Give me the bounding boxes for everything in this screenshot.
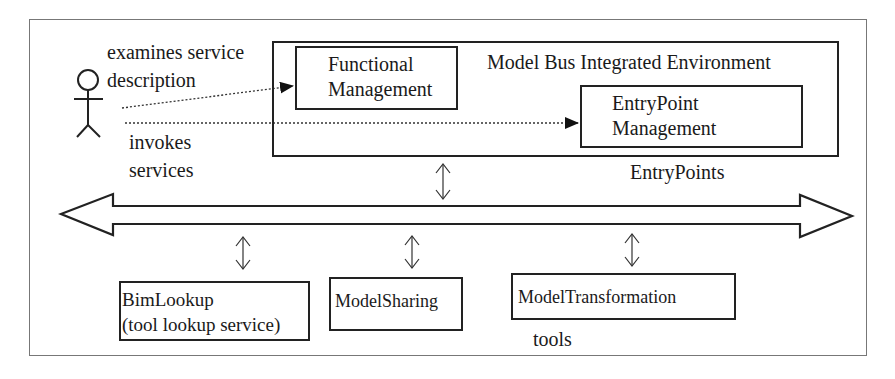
functional-management-line1: Functional [328,52,456,77]
functional-management-line2: Management [328,77,456,102]
model-bus-arrow [61,194,852,237]
tool-modeltransformation-label: ModelTransformation [518,285,734,310]
invokes-label-line2: services [129,158,193,183]
tool-bimlookup-line2: (tool lookup service) [122,312,308,337]
examines-label-line1: examines service [107,40,244,65]
env-bus-connector-icon [436,164,450,199]
diagram-canvas: examines service description invokes ser… [0,0,895,379]
environment-title: Model Bus Integrated Environment [487,50,771,75]
modeltransformation-bus-connector-icon [625,234,639,266]
examines-label-line2: description [107,68,196,93]
invokes-label-line1: invokes [129,130,191,155]
entrypoints-label: EntryPoints [630,160,724,185]
entrypoint-management-box: EntryPoint Management [580,85,803,148]
entrypoint-management-line1: EntryPoint [612,91,801,116]
entrypoint-management-line2: Management [612,116,801,141]
modelsharing-bus-connector-icon [405,236,419,268]
tools-label: tools [533,327,572,352]
functional-management-box: Functional Management [295,46,458,110]
tool-box-bimlookup: BimLookup (tool lookup service) [119,281,310,341]
tool-bimlookup-line1: BimLookup [122,287,308,312]
tool-box-modeltransformation: ModelTransformation [511,273,736,320]
bimlookup-bus-connector-icon [236,237,250,269]
tool-box-modelsharing: ModelSharing [329,277,463,331]
actor-icon [74,70,103,137]
tool-modelsharing-label: ModelSharing [335,289,461,314]
